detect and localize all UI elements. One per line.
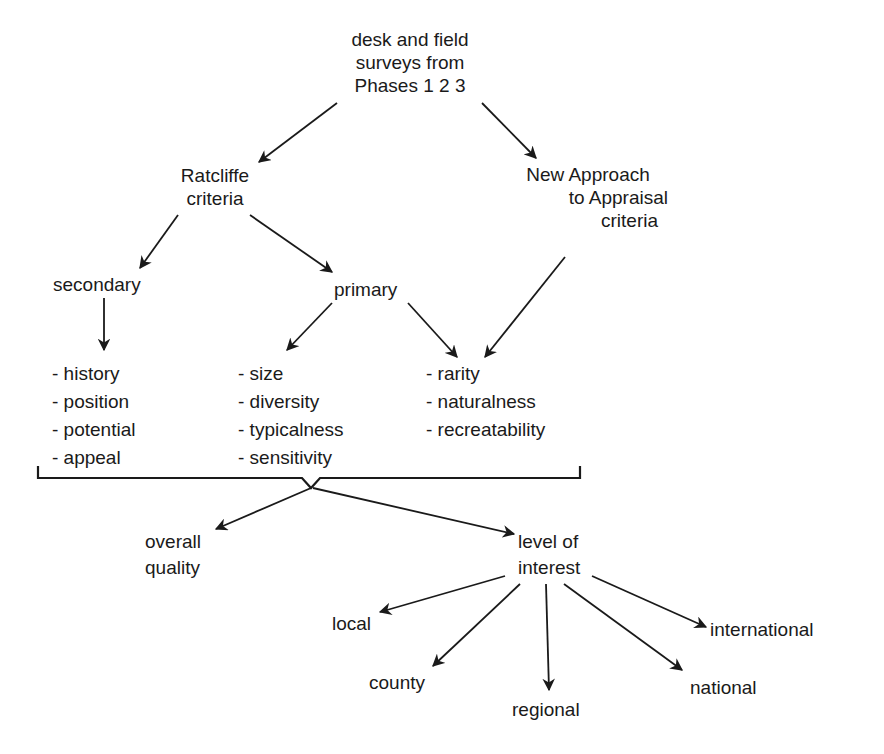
overall-quality-line-1: overall [145, 529, 201, 555]
arrow-ratcliffe-to-secondary [140, 215, 178, 268]
arrow-primary-to-shared [408, 303, 457, 357]
new-approach-line-3: criteria [508, 209, 668, 232]
arrow-root-to-new-approach [482, 103, 536, 158]
node-level-national: national [690, 676, 757, 699]
level-of-interest-line-1: level of [518, 529, 580, 555]
level-local-label: local [332, 613, 371, 634]
list-primary-criteria: - size - diversity - typicalness - sensi… [238, 360, 344, 472]
list-item: - diversity [238, 388, 344, 416]
arrow-root-to-ratcliffe [259, 103, 337, 162]
node-level-local: local [332, 612, 371, 635]
root-line-3: Phases 1 2 3 [330, 74, 490, 97]
arrow-to-international [592, 576, 706, 627]
list-shared-criteria: - rarity - naturalness - recreatability [426, 360, 545, 444]
node-level-regional: regional [512, 698, 580, 721]
list-item: - recreatability [426, 416, 545, 444]
list-secondary-criteria: - history - position - potential - appea… [52, 360, 135, 472]
node-level-county: county [369, 671, 425, 694]
root-line-2: surveys from [330, 51, 490, 74]
list-item: - size [238, 360, 344, 388]
list-item: - appeal [52, 444, 135, 472]
node-root-surveys: desk and field surveys from Phases 1 2 3 [330, 28, 490, 97]
list-item: - history [52, 360, 135, 388]
node-new-approach-criteria: New Approach to Appraisal criteria [508, 163, 668, 232]
arrow-to-county [433, 584, 520, 666]
arrow-to-local [380, 576, 505, 612]
level-county-label: county [369, 672, 425, 693]
arrow-ratcliffe-to-primary [250, 215, 332, 272]
arrow-to-level-of-interest [313, 488, 514, 534]
arrow-new-approach-to-shared [485, 257, 565, 357]
list-item: - typicalness [238, 416, 344, 444]
list-item: - rarity [426, 360, 545, 388]
arrow-to-national [564, 584, 682, 670]
arrow-primary-to-items [287, 303, 332, 350]
node-ratcliffe-criteria: Ratcliffe criteria [160, 164, 270, 210]
new-approach-line-1: New Approach [508, 163, 668, 186]
arrow-to-overall-quality [216, 488, 311, 529]
level-international-label: international [710, 619, 814, 640]
node-level-international: international [710, 618, 814, 641]
arrow-to-regional [546, 584, 549, 690]
root-line-1: desk and field [330, 28, 490, 51]
list-item: - naturalness [426, 388, 545, 416]
ratcliffe-line-1: Ratcliffe [160, 164, 270, 187]
list-item: - sensitivity [238, 444, 344, 472]
level-of-interest-line-2: interest [518, 555, 580, 581]
node-overall-quality: overall quality [145, 529, 201, 581]
node-secondary: secondary [53, 273, 141, 296]
overall-quality-line-2: quality [145, 555, 201, 581]
list-item: - position [52, 388, 135, 416]
primary-label: primary [334, 279, 397, 300]
node-primary: primary [334, 278, 397, 301]
node-level-of-interest: level of interest [518, 529, 580, 581]
level-regional-label: regional [512, 699, 580, 720]
ratcliffe-line-2: criteria [160, 187, 270, 210]
secondary-label: secondary [53, 274, 141, 295]
flow-diagram: desk and field surveys from Phases 1 2 3… [0, 0, 884, 754]
new-approach-line-2: to Appraisal [508, 186, 668, 209]
level-national-label: national [690, 677, 757, 698]
list-item: - potential [52, 416, 135, 444]
